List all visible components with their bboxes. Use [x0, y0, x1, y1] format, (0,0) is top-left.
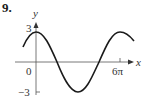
x-axis-label: x	[135, 56, 141, 68]
y-axis-label: y	[32, 7, 38, 19]
x-axis-arrow-icon	[128, 60, 134, 65]
x-tick-label-6pi: 6π	[112, 65, 124, 77]
cosine-graph: y x 3 −3 0 6π	[0, 0, 143, 101]
origin-label: 0	[26, 65, 32, 77]
y-tick-label-neg3: −3	[18, 86, 30, 98]
y-axis-arrow-icon	[34, 22, 39, 28]
y-tick-label-3: 3	[26, 22, 32, 34]
